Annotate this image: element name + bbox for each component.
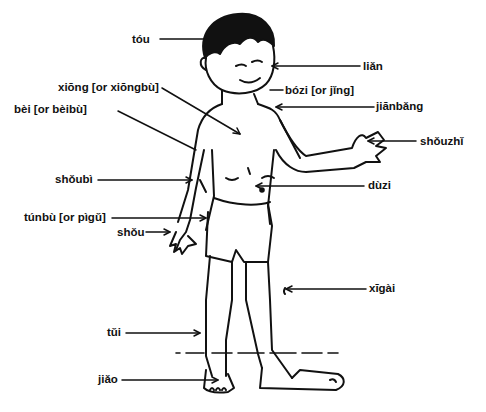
label-bozi: bózi [or jǐng] (285, 85, 354, 97)
label-tunbu: túnbù [or pìgǔ] (24, 212, 106, 224)
label-bei: bèi [or bèibù] (14, 104, 87, 116)
label-xigai: xīgài (369, 283, 395, 295)
label-tui: tǔi (107, 327, 121, 339)
label-lian: liǎn (363, 61, 383, 73)
label-jianbang: jiānbǎng (376, 101, 423, 113)
label-shou: shǒu (117, 227, 144, 239)
label-jiao: jiǎo (98, 374, 118, 386)
hair (203, 14, 274, 58)
label-tou: tóu (132, 34, 150, 46)
boy-illustration (0, 0, 486, 412)
label-duzi: dùzi (368, 180, 391, 192)
label-shoubi: shǒubì (55, 174, 93, 186)
body-parts-diagram: tóu liǎn xiōng [or xiōngbù] bózi [or jǐn… (0, 0, 486, 412)
label-xiong: xiōng [or xiōngbù] (58, 82, 159, 94)
label-shouzhi: shǒuzhǐ (420, 136, 463, 148)
